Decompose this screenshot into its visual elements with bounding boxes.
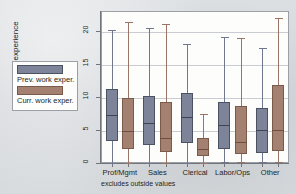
x-axis-tick <box>262 163 263 167</box>
category-label-other: Other <box>261 168 280 177</box>
whisker-lower <box>224 149 225 162</box>
whisker-cap-upper <box>108 30 116 31</box>
y-axis-tick <box>96 64 101 65</box>
whisker-upper <box>241 38 242 106</box>
y-axis-tick-label: 15 <box>82 56 89 70</box>
boxplot-figure: Years of experience 05101520 Prof/MgmtSa… <box>0 0 296 194</box>
whisker-upper <box>149 28 150 97</box>
whisker-lower <box>187 143 188 163</box>
whisker-cap-upper <box>237 38 245 39</box>
median-line <box>160 138 172 139</box>
y-axis-tick-label: 20 <box>82 23 89 37</box>
whisker-lower <box>241 154 242 162</box>
whisker-cap-lower <box>237 162 245 163</box>
median-line <box>235 142 247 143</box>
whisker-cap-lower <box>146 163 154 164</box>
whisker-lower <box>128 149 129 163</box>
box[interactable] <box>235 106 247 154</box>
median-line <box>218 125 230 126</box>
legend-swatch-curr-icon <box>17 86 63 95</box>
whisker-lower <box>166 152 167 163</box>
category-label-clerical: Clerical <box>182 168 207 177</box>
whisker-lower <box>149 145 150 163</box>
whisker-cap-lower <box>200 163 208 164</box>
gridline <box>102 65 288 66</box>
x-axis-tick <box>278 163 279 167</box>
x-axis-tick <box>241 163 242 167</box>
whisker-upper <box>203 114 204 138</box>
median-line <box>143 123 155 124</box>
median-line <box>272 130 284 131</box>
y-axis-tick-label: 10 <box>82 89 89 103</box>
legend-item-prev[interactable]: Prev. work exper. <box>17 65 74 85</box>
whisker-lower <box>278 151 279 162</box>
footnote: excludes outside values <box>101 180 175 187</box>
whisker-upper <box>128 22 129 97</box>
whisker-cap-upper <box>162 24 170 25</box>
y-axis-tick <box>96 130 101 131</box>
gridline <box>102 32 288 33</box>
whisker-upper <box>278 18 279 85</box>
whisker-cap-lower <box>125 163 133 164</box>
whisker-lower <box>262 153 263 162</box>
median-line <box>122 131 134 132</box>
whisker-cap-upper <box>125 22 133 23</box>
whisker-cap-lower <box>183 163 191 164</box>
y-axis-tick-label: 5 <box>82 122 89 136</box>
y-axis-line <box>100 11 101 164</box>
whisker-cap-upper <box>221 37 229 38</box>
y-axis-tick <box>96 163 101 164</box>
whisker-cap-lower <box>275 162 283 163</box>
category-label-sales: Sales <box>148 168 167 177</box>
whisker-upper <box>166 24 167 101</box>
box[interactable] <box>122 98 134 149</box>
whisker-cap-lower <box>108 163 116 164</box>
whisker-cap-upper <box>200 114 208 115</box>
box[interactable] <box>160 102 172 152</box>
whisker-upper <box>112 30 113 89</box>
whisker-upper <box>187 44 188 93</box>
box[interactable] <box>143 96 155 145</box>
y-axis-tick-label: 0 <box>82 155 89 169</box>
whisker-cap-upper <box>183 44 191 45</box>
median-line <box>256 130 268 131</box>
whisker-lower <box>112 141 113 163</box>
whisker-upper <box>262 48 263 108</box>
median-line <box>197 149 209 150</box>
legend: Prev. work exper. Curr. work exper. <box>12 61 78 111</box>
legend-item-curr[interactable]: Curr. work exper. <box>17 86 74 106</box>
category-label-prof-mgmt: Prof/Mgmt <box>103 168 138 177</box>
x-axis-tick <box>224 163 225 167</box>
category-label-labor-ops: Labor/Ops <box>215 168 250 177</box>
box[interactable] <box>272 85 284 151</box>
legend-swatch-prev-icon <box>17 65 63 74</box>
box[interactable] <box>197 138 209 156</box>
whisker-cap-upper <box>275 18 283 19</box>
whisker-cap-lower <box>162 163 170 164</box>
legend-label-prev: Prev. work exper. <box>17 74 74 85</box>
whisker-upper <box>224 37 225 102</box>
legend-label-curr: Curr. work exper. <box>17 95 74 106</box>
whisker-cap-upper <box>259 48 267 49</box>
y-axis-tick <box>96 31 101 32</box>
whisker-cap-upper <box>146 28 154 29</box>
whisker-cap-lower <box>259 162 267 163</box>
whisker-lower <box>203 156 204 163</box>
whisker-cap-lower <box>221 162 229 163</box>
median-line <box>181 117 193 118</box>
median-line <box>106 115 118 116</box>
y-axis-tick <box>96 97 101 98</box>
